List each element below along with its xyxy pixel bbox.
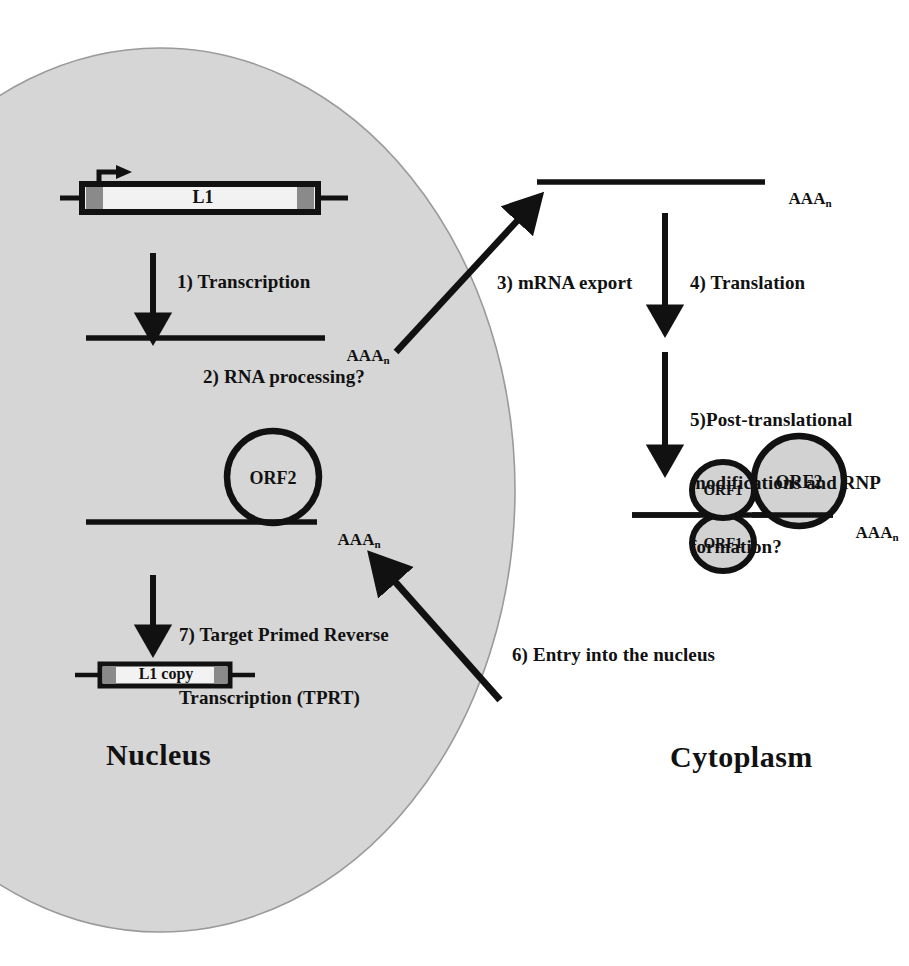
polya-subscript: n — [375, 538, 381, 550]
step-7-line-1: 7) Target Primed Reverse — [179, 624, 389, 645]
polya-prefix: AAA — [346, 346, 383, 365]
polya-subscript: n — [826, 197, 832, 209]
cytoplasm-label: Cytoplasm — [670, 740, 813, 774]
l1-element-label: L1 — [160, 187, 246, 208]
polya-prefix: AAA — [855, 523, 892, 542]
figure-canvas: L1 L1 copy 1) Transcription AAAn 2) RNA … — [0, 0, 909, 966]
polya-cytoplasmic-rnp-label: AAAn — [839, 504, 899, 561]
step-7-tprt-label: 7) Target Primed Reverse Transcription (… — [179, 581, 389, 751]
l1-five-prime-utr — [86, 187, 103, 209]
orf1-upper-label: ORF1 — [689, 482, 757, 499]
step-7-line-2: Transcription (TPRT) — [179, 687, 389, 708]
step-6-nuclear-entry-label: 6) Entry into the nucleus — [512, 644, 715, 665]
orf2-cytoplasmic-label: ORF2 — [757, 472, 841, 493]
polya-prefix: AAA — [788, 189, 825, 208]
step-3-mrna-export-label: 3) mRNA export — [497, 272, 632, 293]
polya-prefix: AAA — [337, 530, 374, 549]
polya-exported-mrna-label: AAAn — [772, 170, 832, 227]
step-2-rna-processing-label: 2) RNA processing? — [203, 366, 365, 387]
step-1-transcription-label: 1) Transcription — [177, 271, 310, 292]
step-4-translation-label: 4) Translation — [690, 272, 805, 293]
l1-three-prime-end — [297, 187, 314, 209]
step-5-line-1: 5)Post-translational — [690, 409, 881, 430]
nucleus-label: Nucleus — [106, 738, 211, 772]
orf2-nuclear-label: ORF2 — [231, 468, 315, 489]
orf1-lower-label: ORF1 — [689, 535, 757, 552]
polya-nuclear-rnp-label: AAAn — [321, 511, 381, 568]
polya-subscript: n — [384, 354, 390, 366]
polya-subscript: n — [893, 531, 899, 543]
